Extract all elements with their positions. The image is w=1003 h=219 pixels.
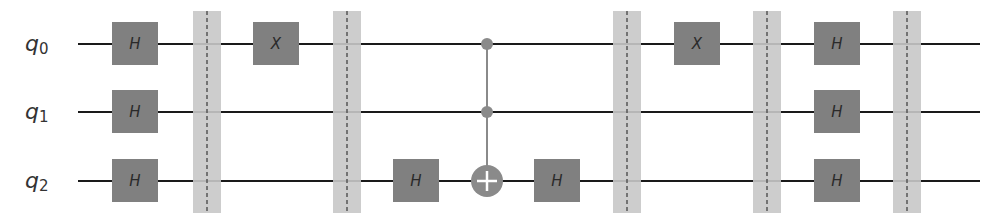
quantum-circuit-diagram: q0q1q2 HHHXHHXHHH [0,0,1003,219]
gate-label: X [691,35,703,53]
gate-h: H [814,159,860,202]
gate-label: H [831,172,842,190]
barrier [333,11,361,213]
barrier [753,11,781,213]
gate-x: X [674,22,720,65]
gate-label: H [129,172,140,190]
qubit-label: q2 [25,168,49,195]
gate-h: H [393,159,439,202]
gate-h: H [112,90,158,133]
multi-qubit-gates [471,38,503,197]
gate-label: H [129,35,140,53]
gate-h: H [534,159,580,202]
barrier [893,11,921,213]
gate-h: H [112,159,158,202]
gate-label: H [551,172,562,190]
barrier [193,11,221,213]
control-dot [481,38,493,50]
toffoli-gate [471,38,503,197]
gate-label: H [410,172,421,190]
gate-label: H [831,35,842,53]
control-dot [481,106,493,118]
gate-h: H [112,22,158,65]
gate-x: X [253,22,299,65]
gate-label: X [270,35,282,53]
qubit-label: q1 [25,99,49,126]
barrier [613,11,641,213]
gate-label: H [831,103,842,121]
gate-h: H [814,90,860,133]
gate-h: H [814,22,860,65]
qubit-label: q0 [25,31,49,58]
qubit-labels: q0q1q2 [25,31,49,195]
gate-label: H [129,103,140,121]
